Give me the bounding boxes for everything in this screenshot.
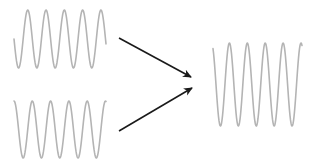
output-wave <box>213 43 302 126</box>
arrow-bottom <box>119 88 192 131</box>
arrow-top <box>119 38 191 77</box>
wave-combination-diagram <box>0 0 313 167</box>
input-wave-bottom <box>14 101 106 158</box>
input-wave-top <box>14 10 106 68</box>
